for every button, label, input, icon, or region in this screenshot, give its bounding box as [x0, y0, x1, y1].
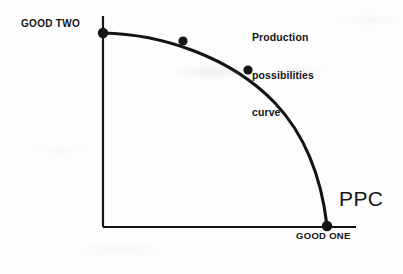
curve-annotation: Production possibilities curve: [252, 6, 314, 131]
data-point-b: [178, 36, 187, 45]
y-axis-label: GOOD TWO: [21, 18, 80, 29]
x-axis-label: GOOD ONE: [296, 230, 351, 241]
curve-annotation-line-2: possibilities: [252, 69, 314, 82]
data-point-y-intercept: [98, 28, 108, 38]
curve-annotation-line-1: Production: [252, 31, 314, 44]
ppc-curve-label: PPC: [339, 187, 383, 211]
curve-annotation-line-3: curve: [252, 106, 314, 119]
